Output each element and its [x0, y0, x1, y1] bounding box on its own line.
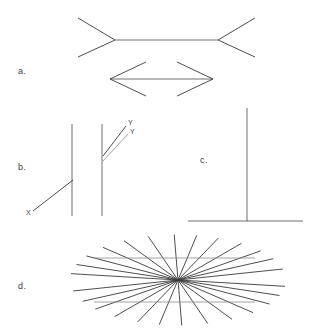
muller-lyer-bottom-fin	[110, 62, 146, 79]
point-label-x: X	[26, 209, 31, 216]
poggendorff-transversal-y-upper	[103, 126, 126, 156]
poggendorff-figure	[33, 124, 128, 216]
panel-label-c: c.	[200, 155, 208, 165]
panel-labels: a.b.c.d.	[18, 66, 208, 291]
hering-ray	[71, 274, 178, 280]
muller-lyer-bottom-fin	[110, 79, 146, 96]
panel-label-d: d.	[18, 281, 26, 291]
point-label-y-upper: Y	[128, 119, 133, 126]
muller-lyer-bottom-fin	[177, 79, 213, 96]
illusion-canvas: a.b.c.d. XYY	[0, 0, 314, 336]
poggendorff-transversal-y-lower	[103, 134, 128, 161]
muller-lyer-top-fin	[218, 18, 255, 40]
muller-lyer-top-fin	[78, 40, 115, 57]
muller-lyer-top-fin	[78, 18, 115, 40]
muller-lyer-bottom-fin	[177, 62, 213, 79]
point-label-y-lower: Y	[130, 128, 135, 135]
panel-label-b: b.	[18, 162, 26, 172]
poggendorff-transversal-x	[33, 180, 73, 211]
illusion-figure-sheet: a.b.c.d. XYY	[0, 0, 314, 336]
muller-lyer-figure	[78, 18, 255, 96]
hering-ray	[178, 280, 285, 286]
point-labels: XYY	[26, 119, 135, 216]
hering-figure	[71, 235, 285, 326]
muller-lyer-top-fin	[218, 40, 255, 57]
hering-ray	[178, 238, 218, 280]
hering-ray	[174, 235, 178, 280]
hering-ray	[83, 280, 178, 301]
panel-label-a: a.	[18, 66, 26, 76]
hering-ray	[178, 280, 182, 325]
hering-ray	[178, 259, 273, 280]
hering-ray	[138, 280, 178, 322]
